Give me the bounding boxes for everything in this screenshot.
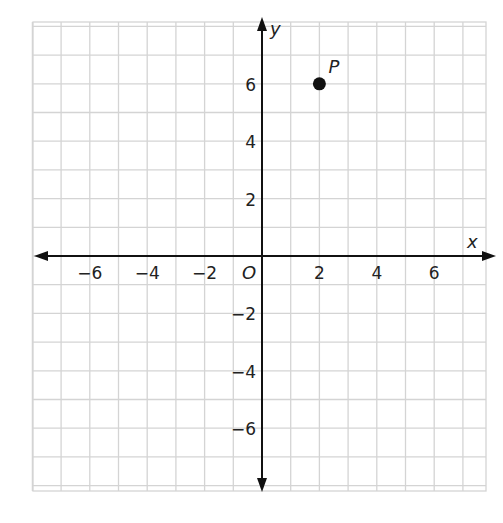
y-axis-arrow-up-icon: [257, 17, 267, 31]
x-tick-label: 4: [371, 263, 382, 283]
origin-label: O: [242, 262, 256, 283]
point-label: P: [328, 56, 339, 77]
coordinate-plane: −6−4−2246642−2−4−6 x y O P: [0, 0, 503, 523]
y-tick-label: −2: [231, 304, 256, 324]
x-tick-label: −4: [135, 263, 160, 283]
x-axis-arrow-right-icon: [482, 251, 496, 261]
y-axis-label: y: [269, 18, 281, 39]
axes: [34, 17, 496, 492]
y-tick-label: 6: [245, 75, 256, 95]
data-points: P: [313, 56, 340, 91]
x-axis-arrow-left-icon: [34, 251, 48, 261]
x-tick-label: −2: [192, 263, 217, 283]
y-tick-label: −6: [231, 419, 256, 439]
y-tick-label: −4: [231, 362, 256, 382]
y-tick-label: 4: [245, 132, 256, 152]
point-p: [313, 77, 326, 90]
x-axis-label: x: [466, 231, 478, 252]
x-tick-label: 6: [429, 263, 440, 283]
x-tick-label: 2: [314, 263, 325, 283]
y-tick-label: 2: [245, 190, 256, 210]
x-tick-label: −6: [77, 263, 102, 283]
